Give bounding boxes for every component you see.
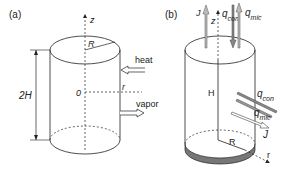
panel-a-tag: (a) — [9, 9, 21, 20]
top-J-label: J — [195, 8, 201, 18]
heat-arrow: heat — [121, 55, 153, 74]
heat-label: heat — [135, 55, 153, 65]
top-qmic-arrow — [236, 3, 242, 48]
height-label-b: H — [208, 88, 215, 98]
r-axis-label-a: r — [122, 82, 126, 92]
radius-label-b: R — [229, 137, 236, 147]
panel-a: (a) z R 2H 0 r heat — [9, 9, 159, 154]
base-disk-b — [185, 144, 255, 164]
radius-label-a: R — [88, 39, 95, 49]
top-qcon-arrow — [230, 5, 236, 48]
origin-label-a: 0 — [76, 88, 81, 98]
vapor-label: vapor — [136, 99, 159, 109]
cylinder-b — [185, 36, 255, 144]
diagram-canvas: (a) z R 2H 0 r heat — [0, 0, 289, 172]
vapor-arrow: vapor — [120, 99, 159, 117]
side-qcon-label: qcon — [257, 88, 274, 102]
side-J-label: J — [262, 129, 269, 140]
top-qmic-label: qmic — [245, 7, 262, 21]
top-J-arrow — [203, 5, 209, 48]
z-axis-label-a: z — [89, 15, 95, 25]
z-axis-label-b: z — [210, 16, 216, 26]
panel-b: (b) H R r J z qcon qmic qcon — [165, 3, 277, 164]
r-axis-label-b: r — [267, 150, 270, 160]
panel-b-tag: (b) — [165, 9, 177, 20]
height-label-a: 2H — [18, 90, 33, 101]
